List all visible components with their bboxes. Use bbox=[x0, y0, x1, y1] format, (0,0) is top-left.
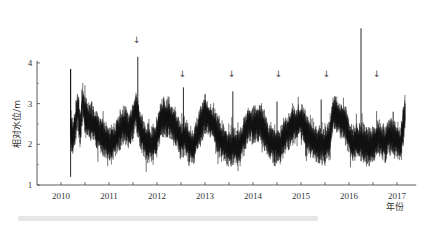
y-axis: 1234 bbox=[28, 58, 40, 190]
event-arrows: ↓↓↓↓↓↓ bbox=[133, 35, 381, 79]
y-axis-title: 相对水位/m bbox=[11, 100, 22, 148]
x-tick-label: 2014 bbox=[244, 191, 263, 201]
water-level-series bbox=[71, 28, 405, 177]
arrow-down-icon: ↓ bbox=[323, 69, 331, 79]
x-tick-label: 2015 bbox=[292, 191, 311, 201]
x-tick-label: 2016 bbox=[340, 191, 359, 201]
arrow-down-icon: ↓ bbox=[373, 69, 381, 79]
x-tick-label: 2013 bbox=[196, 191, 215, 201]
arrow-down-icon: ↓ bbox=[179, 69, 187, 79]
y-tick-label: 1 bbox=[28, 180, 33, 190]
arrow-down-icon: ↓ bbox=[228, 69, 236, 79]
figure-caption bbox=[18, 216, 318, 221]
x-axis-title: 年份 bbox=[386, 201, 404, 212]
water-level-chart: 1234 20102011201220132014201520162017 ↓↓… bbox=[0, 0, 435, 229]
y-tick-label: 3 bbox=[28, 99, 33, 109]
x-axis: 20102011201220132014201520162017 bbox=[37, 182, 416, 201]
x-tick-label: 2012 bbox=[148, 191, 166, 201]
y-tick-label: 2 bbox=[28, 139, 33, 149]
x-tick-label: 2010 bbox=[52, 191, 71, 201]
arrow-down-icon: ↓ bbox=[275, 69, 283, 79]
y-tick-label: 4 bbox=[28, 58, 33, 68]
arrow-down-icon: ↓ bbox=[133, 35, 141, 45]
x-tick-label: 2017 bbox=[388, 191, 407, 201]
x-tick-label: 2011 bbox=[100, 191, 118, 201]
